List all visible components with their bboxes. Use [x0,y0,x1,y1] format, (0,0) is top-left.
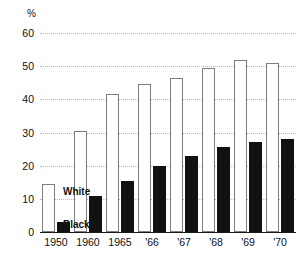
x-tick-label-1965: 1965 [108,236,131,248]
y-tick-label-60: 60 [22,27,34,39]
x-tick-label-69: '69 [241,236,255,248]
bars-layer [40,33,296,232]
legend-label-white: White [63,186,90,197]
y-tick-label-30: 30 [22,127,34,139]
bar-black-67 [185,156,198,232]
bar-black-66 [153,166,166,232]
x-tick-label-70: '70 [273,236,287,248]
y-tick-label-10: 10 [22,193,34,205]
x-tick-label-66: '66 [145,236,159,248]
bar-white-67 [170,78,183,232]
bar-black-1960 [89,196,102,232]
x-tick-label-1950: 1950 [44,236,67,248]
bar-black-70 [281,139,294,232]
bar-white-66 [138,84,151,232]
bar-white-68 [202,68,215,232]
bar-white-1960 [74,131,87,232]
bar-white-1965 [106,94,119,232]
y-tick-label-40: 40 [22,93,34,105]
y-axis-tick-labels: 0102030405060 [4,33,34,232]
y-tick-label-50: 50 [22,60,34,72]
y-tick-label-20: 20 [22,160,34,172]
x-tick-label-67: '67 [177,236,191,248]
x-tick-label-1960: 1960 [76,236,99,248]
bar-white-70 [266,63,279,232]
bar-black-68 [217,147,230,232]
x-axis-tick-labels: 195019601965'66'67'68'69'70 [40,236,296,256]
y-axis-unit-label: % [27,8,36,19]
bar-black-69 [249,142,262,232]
bar-chart: % 0102030405060 195019601965'66'67'68'69… [0,0,307,267]
x-tick-label-68: '68 [209,236,223,248]
bar-white-69 [234,60,247,232]
bar-white-1950 [42,184,55,232]
axis-baseline [40,232,296,233]
y-tick-label-0: 0 [28,226,34,238]
legend-label-black: Black [63,219,90,230]
bar-black-1965 [121,181,134,232]
plot-area [40,33,296,232]
